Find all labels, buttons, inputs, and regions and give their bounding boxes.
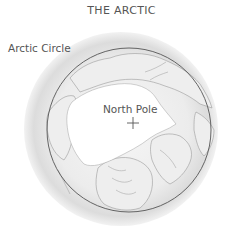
- north-pole-label: North Pole: [103, 103, 157, 115]
- arctic-circle-label: Arctic Circle: [8, 42, 71, 54]
